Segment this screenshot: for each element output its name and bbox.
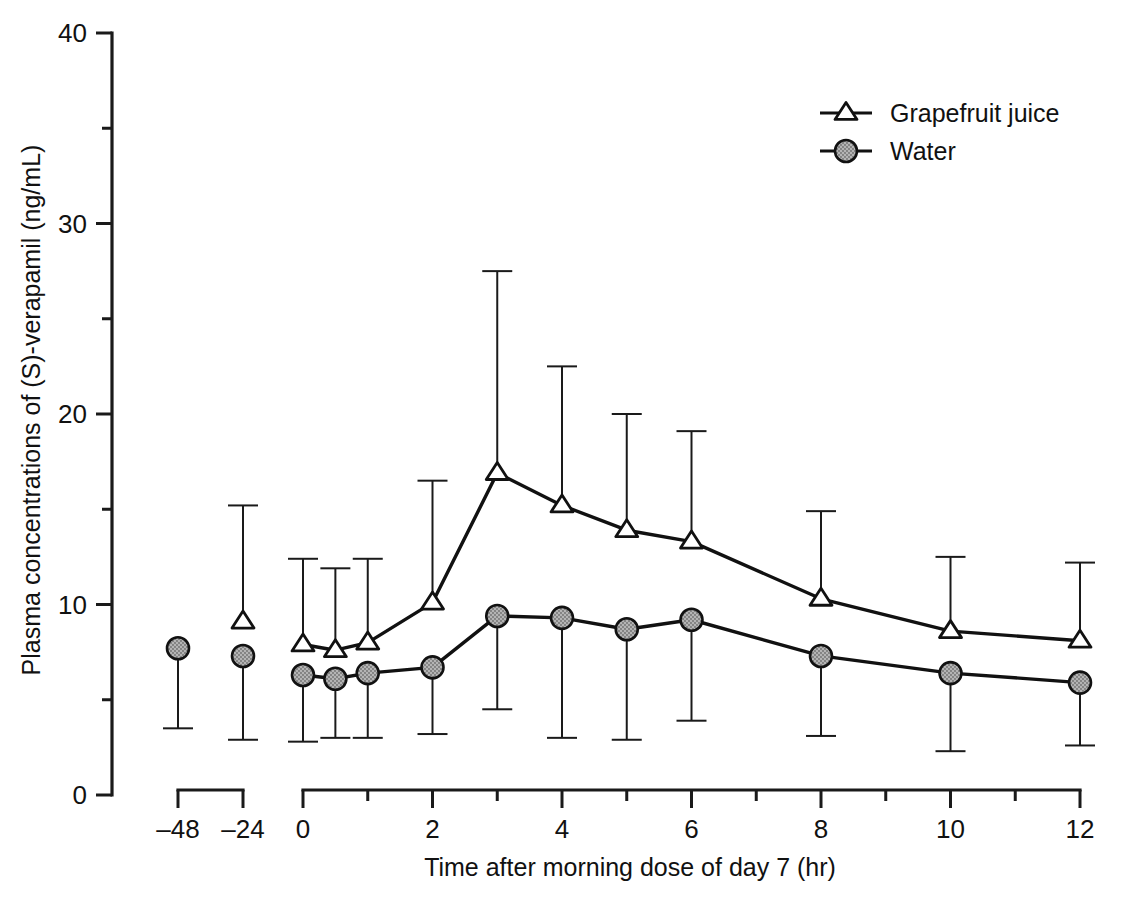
x-tick-label: 6 xyxy=(684,814,698,844)
figure-caption xyxy=(0,895,1121,909)
y-axis: 010203040 xyxy=(58,18,112,810)
marker-filled-circle xyxy=(681,609,703,631)
error-bars xyxy=(228,271,1095,650)
marker-open-triangle xyxy=(357,632,379,649)
data-series-group xyxy=(163,271,1095,751)
y-tick-label: 30 xyxy=(58,209,87,239)
x-tick-label: 10 xyxy=(936,814,965,844)
x-tick-label: 8 xyxy=(814,814,828,844)
marker-open-triangle xyxy=(422,592,444,609)
marker-open-triangle xyxy=(292,634,314,651)
chart-canvas: 010203040 –48–24024681012 Grapefruit jui… xyxy=(0,0,1121,909)
x-tick-label: 12 xyxy=(1066,814,1095,844)
marker-filled-circle xyxy=(324,668,346,690)
marker-filled-circle xyxy=(486,605,508,627)
x-tick-label: 2 xyxy=(425,814,439,844)
legend-item: Grapefruit juice xyxy=(820,99,1060,127)
legend-label: Grapefruit juice xyxy=(890,99,1060,127)
y-tick-label: 0 xyxy=(73,780,87,810)
y-tick-label: 10 xyxy=(58,590,87,620)
marker-filled-circle xyxy=(232,645,254,667)
y-tick-label: 40 xyxy=(58,18,87,48)
x-axis-title: Time after morning dose of day 7 (hr) xyxy=(424,853,836,881)
x-tick-label: 4 xyxy=(555,814,569,844)
marker-filled-circle xyxy=(167,637,189,659)
marker-filled-circle xyxy=(551,607,573,629)
x-axis: –48–24024681012 xyxy=(156,790,1094,844)
marker-filled-circle xyxy=(835,140,857,162)
series-grapefruit-juice xyxy=(228,271,1095,657)
figure-root: 010203040 –48–24024681012 Grapefruit jui… xyxy=(0,0,1121,909)
x-tick-label: 0 xyxy=(296,814,310,844)
legend-label: Water xyxy=(890,137,956,165)
marker-filled-circle xyxy=(1069,672,1091,694)
marker-open-triangle xyxy=(232,611,254,628)
marker-filled-circle xyxy=(616,618,638,640)
y-axis-title: Plasma concentrations of (S)-verapamil (… xyxy=(17,145,45,676)
marker-filled-circle xyxy=(357,662,379,684)
marker-open-triangle xyxy=(835,102,857,119)
y-tick-label: 20 xyxy=(58,399,87,429)
marker-filled-circle xyxy=(292,664,314,686)
marker-filled-circle xyxy=(940,662,962,684)
marker-open-triangle xyxy=(486,463,508,480)
marker-filled-circle xyxy=(810,645,832,667)
x-tick-label-predose: –48 xyxy=(156,814,199,844)
chart-legend: Grapefruit juiceWater xyxy=(820,99,1060,165)
marker-filled-circle xyxy=(422,656,444,678)
legend-item: Water xyxy=(820,137,956,165)
x-tick-label-predose: –24 xyxy=(221,814,264,844)
